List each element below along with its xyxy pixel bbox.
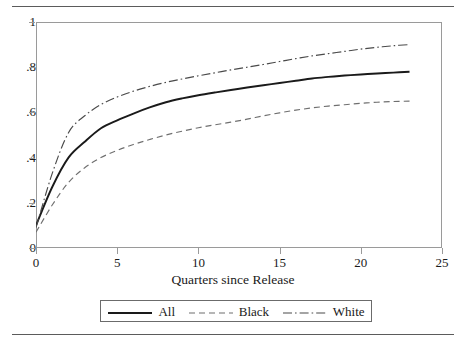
legend-item-white[interactable]: White (282, 305, 365, 318)
legend-swatch-white (282, 305, 328, 317)
x-axis-tick-mark (442, 248, 443, 254)
x-axis-tick-mark (117, 248, 118, 254)
x-axis-tick-label: 5 (102, 256, 132, 269)
legend-item-black[interactable]: Black (188, 305, 269, 318)
x-axis-tick-label: 15 (265, 256, 295, 269)
y-axis-tick-mark (29, 22, 35, 23)
y-axis-tick-mark (29, 158, 35, 159)
x-axis-tick-mark (361, 248, 362, 254)
x-axis-tick-label: 20 (346, 256, 376, 269)
y-axis-tick-mark (29, 112, 35, 113)
legend-label-black: Black (239, 305, 269, 318)
chart-lines (36, 22, 442, 248)
plot-area (36, 22, 442, 248)
legend: AllBlackWhite (100, 300, 372, 322)
y-axis-tick-mark (29, 203, 35, 204)
legend-label-white: White (333, 305, 365, 318)
x-axis-title: Quarters since Release (0, 272, 466, 287)
legend-item-all[interactable]: All (107, 305, 175, 318)
bottom-horizontal-rule (12, 334, 454, 335)
x-axis-tick-mark (36, 248, 37, 254)
y-axis: 0.2.4.6.81 (0, 0, 36, 347)
x-axis-tick-label: 25 (427, 256, 457, 269)
x-axis-tick-mark (280, 248, 281, 254)
legend-swatch-all (107, 305, 153, 317)
legend-swatch-black (188, 305, 234, 317)
y-axis-tick-mark (29, 67, 35, 68)
series-line-black (36, 101, 410, 232)
x-axis-tick-label: 10 (183, 256, 213, 269)
top-horizontal-rule (12, 6, 454, 7)
x-axis-tick-label: 0 (21, 256, 51, 269)
y-axis-tick-mark (29, 248, 35, 249)
figure-container: 0.2.4.6.81 0510152025 Quarters since Rel… (0, 0, 466, 347)
series-line-all (36, 72, 410, 226)
legend-label-all: All (158, 305, 175, 318)
x-axis-tick-mark (198, 248, 199, 254)
